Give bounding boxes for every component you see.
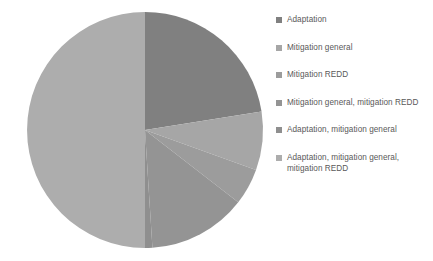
legend-swatch-icon [276,155,282,161]
pie-chart-figure: Adaptation Mitigation general Mitigation… [0,0,433,261]
pie-slice[interactable] [27,12,145,248]
legend-swatch-icon [276,127,282,133]
legend-swatch-icon [276,45,282,51]
legend-item-mitigation-general[interactable]: Mitigation general [276,42,433,54]
pie-chart-plot-area [0,0,272,261]
legend-item-adaptation[interactable]: Adaptation [276,14,433,26]
pie-slice-group [27,12,263,248]
legend-swatch-icon [276,72,282,78]
chart-legend: Adaptation Mitigation general Mitigation… [276,14,433,247]
legend-item-label: Mitigation general [287,42,353,54]
legend-swatch-icon [276,17,282,23]
legend-item-label: Mitigation general, mitigation REDD [287,97,418,109]
pie-chart-svg [0,0,272,261]
legend-item-label: Adaptation, mitigation general [287,124,397,136]
legend-item-mitigation-redd[interactable]: Mitigation REDD [276,69,433,81]
pie-slice[interactable] [145,12,262,130]
legend-swatch-icon [276,100,282,106]
legend-item-label: Mitigation REDD [287,69,348,81]
legend-item-label: Adaptation, mitigation general, mitigati… [287,152,429,175]
legend-item-adaptation-mitigation-general-mitigation-redd[interactable]: Adaptation, mitigation general, mitigati… [276,152,433,175]
legend-item-mitigation-general-mitigation-redd[interactable]: Mitigation general, mitigation REDD [276,97,433,109]
legend-item-label: Adaptation [287,14,327,26]
legend-item-adaptation-mitigation-general[interactable]: Adaptation, mitigation general [276,124,433,136]
